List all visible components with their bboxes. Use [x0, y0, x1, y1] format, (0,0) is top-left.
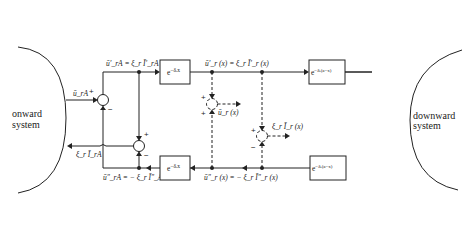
- arrow-j3-output: [236, 101, 241, 107]
- sign-j1-plus: +: [89, 87, 94, 96]
- sign-j4-minus: −: [251, 143, 256, 152]
- label-i-out-A: ξ_r Ī_rA: [76, 150, 102, 159]
- summing-junction-4: [257, 131, 268, 142]
- sign-j4-plus: +: [251, 126, 256, 135]
- arrow-j4-output: [285, 133, 290, 139]
- label-i-out-x: ξ_r Ī_r (x): [272, 122, 304, 131]
- summing-junction-3: [207, 99, 218, 110]
- arrow-bottom-bus-left: [146, 165, 151, 171]
- label-u-r-x-bottom: ū″_r (x) = − ξ_r Ī″_r (x): [204, 173, 278, 182]
- downward-system-label-2: system: [413, 120, 441, 131]
- arrow-j3-bottom: [209, 110, 215, 115]
- sign-j3-plus-bottom: +: [201, 109, 206, 118]
- arrow-j4-bottom: [259, 142, 265, 147]
- sign-j3-plus-top: +: [201, 93, 206, 102]
- summing-junction-1: [98, 95, 109, 106]
- label-u-rA-bottom: ū″_rA = − ξ_r Ī″_A: [103, 173, 163, 182]
- transmission-line-block-diagram: onward system downward system ū_rA + − ū…: [0, 0, 474, 239]
- label-u-rA-top: ū′_rA = ξ_r Ī′_rA: [106, 59, 159, 68]
- label-u-out-x: ū_r (x): [218, 108, 239, 117]
- summing-junction-2: [134, 141, 145, 152]
- arrow-into-top-right-block: [304, 69, 309, 75]
- onward-system-label-1: onward: [12, 108, 42, 119]
- arrow-into-junction-1-bottom: [100, 106, 106, 110]
- arrow-into-top-left-block: [155, 69, 160, 75]
- label-u-r-x-top: ū′_r (x) = ξ_r Ī′_r (x): [205, 59, 269, 68]
- sign-j2-minus: −: [144, 151, 149, 160]
- sign-j2-plus: +: [144, 130, 149, 139]
- onward-system-label-2: system: [12, 119, 40, 130]
- arrow-bottom-bus-middle: [242, 165, 247, 171]
- arrow-into-junction-2-bottom: [136, 152, 142, 157]
- sign-j1-minus: −: [108, 105, 113, 114]
- arrow-to-onward: [67, 143, 72, 149]
- label-u-in-A: ū_rA: [73, 89, 88, 98]
